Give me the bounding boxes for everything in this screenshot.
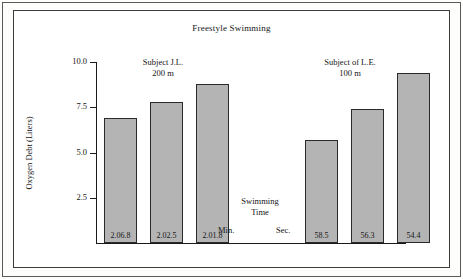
bar: 54.4 xyxy=(397,73,430,243)
bar: 2.06.8 xyxy=(104,118,137,243)
x-axis-baseline xyxy=(96,243,406,244)
y-tick-mark xyxy=(90,107,97,108)
bar-value-label: 54.4 xyxy=(398,231,429,241)
y-tick-label: 5.0 xyxy=(57,148,87,157)
group-right-subject: Subject of L.E. xyxy=(290,57,410,68)
bar: 2.02.5 xyxy=(150,102,183,243)
bar: 56.3 xyxy=(351,109,384,243)
bar: 2.01.8 xyxy=(196,84,229,243)
group-header-left: Subject J.L. 200 m xyxy=(108,57,218,79)
bar-value-label: 2.06.8 xyxy=(105,231,136,241)
group-header-right: Subject of L.E. 100 m xyxy=(290,57,410,79)
y-tick-mark xyxy=(90,198,97,199)
group-left-distance: 200 m xyxy=(108,68,218,79)
chart-title: Freestyle Swimming xyxy=(0,23,463,33)
bar-value-label: 2.02.5 xyxy=(151,231,182,241)
y-tick-label: 7.5 xyxy=(57,102,87,111)
unit-label-sec: Sec. xyxy=(276,225,290,235)
chart-figure: Freestyle Swimming Oxygen Debt (Liters) … xyxy=(0,0,463,279)
y-tick-mark xyxy=(90,62,97,63)
unit-label-min: Min. xyxy=(218,225,234,235)
bar-value-label: 58.5 xyxy=(306,231,337,241)
y-tick-label: 10.0 xyxy=(57,57,87,66)
y-tick-label: 2.5 xyxy=(57,193,87,202)
group-left-subject: Subject J.L. xyxy=(108,57,218,68)
bar-value-label: 56.3 xyxy=(352,231,383,241)
x-axis-caption: Swimming Time xyxy=(216,196,304,218)
bar: 58.5 xyxy=(305,140,338,243)
y-tick-mark xyxy=(90,153,97,154)
x-axis-caption-line1: Swimming xyxy=(216,196,304,207)
plot-area: Freestyle Swimming Oxygen Debt (Liters) … xyxy=(0,0,463,279)
group-right-distance: 100 m xyxy=(290,68,410,79)
y-axis-label: Oxygen Debt (Liters) xyxy=(24,93,34,213)
x-axis-caption-line2: Time xyxy=(216,207,304,218)
